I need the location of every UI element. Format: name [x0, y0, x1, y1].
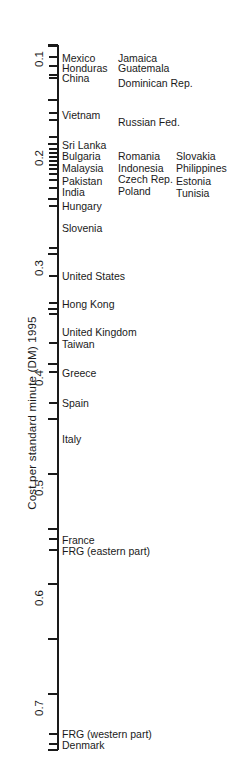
data-point-tick — [49, 549, 58, 550]
data-point-tick — [49, 733, 58, 734]
country-label: Hong Kong — [62, 299, 115, 310]
y-axis-minor-tick — [48, 308, 58, 310]
country-label: Italy — [62, 434, 81, 445]
country-label: Estonia — [176, 176, 211, 187]
y-axis-tick-label: 0.3 — [33, 253, 45, 283]
country-label: Spain — [62, 398, 89, 409]
country-label: Vietnam — [62, 110, 100, 121]
axis-bottom-cap — [48, 749, 58, 751]
data-point-tick — [49, 302, 58, 303]
y-axis-tick-label: 0.5 — [33, 473, 45, 503]
country-label: Russian Fed. — [118, 117, 180, 128]
y-axis-minor-tick — [48, 198, 58, 200]
data-point-tick — [49, 342, 58, 343]
data-point-tick — [49, 187, 58, 188]
data-point-tick — [49, 56, 58, 57]
country-label: Philippines — [176, 163, 227, 174]
data-point-tick — [49, 173, 58, 176]
axis-spine — [57, 45, 59, 750]
data-point-tick — [49, 156, 58, 157]
y-axis-tick-label: 0.1 — [33, 44, 45, 74]
country-label: Greece — [62, 368, 96, 379]
country-label: Slovenia — [62, 223, 102, 234]
data-point-tick — [49, 402, 58, 403]
country-label: Czech Rep. — [118, 174, 173, 185]
y-axis-major-tick — [48, 253, 58, 255]
data-point-tick — [49, 160, 58, 161]
country-label: Romania — [118, 151, 160, 162]
cost-per-standard-minute-chart: Cost per standard minute (DM) 1995 0.10.… — [0, 0, 245, 773]
country-label: Guatemala — [118, 63, 169, 74]
data-point-tick — [49, 313, 58, 314]
data-point-tick — [49, 538, 58, 539]
y-axis-major-tick — [48, 583, 58, 585]
y-axis-minor-tick — [48, 418, 58, 420]
data-point-tick — [49, 164, 58, 165]
country-label: Tunisia — [176, 188, 209, 199]
y-axis-minor-tick — [48, 638, 58, 640]
y-axis-minor-tick — [48, 528, 58, 530]
data-point-tick — [49, 119, 58, 120]
country-label: Taiwan — [62, 339, 95, 350]
y-axis-title: Cost per standard minute (DM) 1995 — [26, 263, 38, 563]
country-label: Hungary — [62, 201, 102, 212]
data-point-tick — [49, 371, 58, 372]
data-point-tick — [49, 179, 58, 180]
country-label: Malaysia — [62, 163, 103, 174]
country-label: United Kingdom — [62, 327, 137, 338]
data-point-tick — [49, 743, 58, 744]
y-axis-tick-label: 0.6 — [33, 583, 45, 613]
data-point-tick — [49, 143, 58, 144]
country-label: Dominican Rep. — [118, 78, 193, 89]
country-label: China — [62, 73, 89, 84]
data-point-tick — [49, 275, 58, 276]
data-point-tick — [49, 247, 58, 248]
data-point-tick — [49, 77, 58, 78]
data-point-tick — [49, 112, 58, 113]
data-point-tick — [49, 168, 58, 169]
y-axis-tick-label: 0.2 — [33, 143, 45, 173]
country-label: Slovakia — [176, 151, 216, 162]
data-point-tick — [49, 74, 58, 75]
y-axis-tick-label: 0.7 — [33, 693, 45, 723]
country-label: Denmark — [62, 740, 105, 751]
y-axis-major-tick — [48, 363, 58, 365]
y-axis-tick-label: 0.4 — [33, 363, 45, 393]
data-point-tick — [49, 205, 58, 206]
country-label: FRG (eastern part) — [62, 546, 150, 557]
data-point-tick — [49, 65, 58, 66]
data-point-tick — [49, 148, 58, 149]
data-point-tick — [49, 152, 58, 153]
country-label: United States — [62, 271, 125, 282]
country-label: India — [62, 187, 85, 198]
country-label: Bulgaria — [62, 151, 101, 162]
y-axis-major-tick — [48, 693, 58, 695]
y-axis-minor-tick — [48, 99, 58, 101]
country-label: Poland — [118, 186, 151, 197]
data-point-tick — [49, 136, 58, 137]
y-axis-major-tick — [48, 473, 58, 475]
y-axis-major-tick — [48, 44, 58, 46]
